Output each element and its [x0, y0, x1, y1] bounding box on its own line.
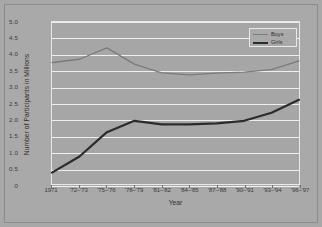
y-axis-tick-label: 4.5: [0, 34, 18, 41]
series-line-boys: [52, 48, 299, 75]
x-axis-tick-mark: [217, 185, 218, 188]
x-axis-tick-mark: [162, 185, 163, 188]
legend-item-boys: Boys: [253, 31, 293, 38]
y-axis-tick-label: 1.5: [0, 132, 18, 139]
x-axis-tick-mark: [245, 185, 246, 188]
y-axis-tick-label: 0.5: [0, 165, 18, 172]
y-axis-tick-label: 5.0: [0, 18, 18, 25]
y-axis-tick-label: 4.0: [0, 50, 18, 57]
legend-swatch-girls: [253, 42, 268, 44]
y-axis-tick-label: 2.0: [0, 116, 18, 123]
x-axis-title: Year: [51, 199, 300, 206]
chart-legend: Boys Girls: [249, 28, 297, 47]
x-axis-tick-mark: [51, 185, 52, 188]
x-axis-tick-mark: [79, 185, 80, 188]
x-axis-tick-mark: [134, 185, 135, 188]
y-axis-tick-label: 1.0: [0, 149, 18, 156]
y-axis-tick-label: 0: [0, 182, 18, 189]
chart-figure: Number of Participants in Millions 5.04.…: [0, 0, 322, 227]
x-axis-tick-mark: [106, 185, 107, 188]
x-axis-tick-mark: [189, 185, 190, 188]
x-axis-tick-mark: [300, 185, 301, 188]
legend-label-girls: Girls: [271, 39, 283, 46]
series-line-girls: [52, 100, 299, 173]
legend-item-girls: Girls: [253, 39, 293, 46]
y-axis-tick-label: 3.0: [0, 83, 18, 90]
legend-swatch-boys: [253, 34, 268, 35]
y-axis-tick-label: 3.5: [0, 67, 18, 74]
legend-label-boys: Boys: [271, 31, 283, 38]
x-axis-tick-mark: [272, 185, 273, 188]
y-axis-tick-label: 2.5: [0, 100, 18, 107]
